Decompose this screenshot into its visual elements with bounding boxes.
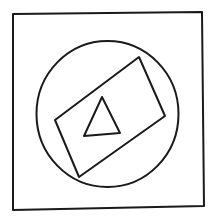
inner-triangle xyxy=(84,97,120,136)
rotated-rectangle xyxy=(55,57,165,177)
nested-shapes-diagram xyxy=(0,0,216,219)
circle xyxy=(37,41,179,187)
